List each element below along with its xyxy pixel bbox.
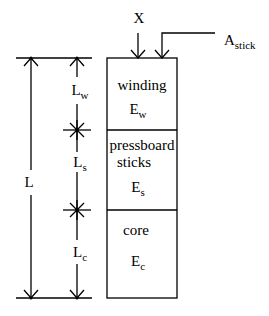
Lc-base: L <box>73 244 82 260</box>
load-label-X: X <box>134 11 145 26</box>
area-label-A-stick: Astick <box>224 33 256 51</box>
section-sticks-modulus: Es <box>131 180 144 198</box>
Ec-base: E <box>131 253 140 269</box>
Ew-sub: w <box>139 108 147 120</box>
Es-sub: s <box>140 186 144 198</box>
section-sticks-label-line1: pressboard <box>110 138 175 153</box>
a-base-text: A <box>224 32 235 48</box>
Ew-base: E <box>129 101 138 117</box>
dimension-label-Ls: Ls <box>73 155 86 173</box>
Ec-sub: c <box>140 260 145 272</box>
Ls-base: L <box>73 154 82 170</box>
winding-text: winding <box>117 77 166 93</box>
section-core-label: core <box>123 223 149 238</box>
section-winding-modulus: Ew <box>129 102 146 120</box>
a-sub-text: stick <box>235 39 256 51</box>
L-text: L <box>24 174 33 190</box>
x-text: X <box>134 10 145 26</box>
section-core-modulus: Ec <box>131 254 145 272</box>
dimension-label-Lc: Lc <box>73 245 87 263</box>
core-text: core <box>123 222 149 238</box>
section-sticks-label-line2: sticks <box>117 155 151 170</box>
Lw-base: L <box>71 82 80 98</box>
Lw-sub: w <box>81 89 89 101</box>
Es-base: E <box>131 179 140 195</box>
dimension-label-Lw: Lw <box>71 83 88 101</box>
section-winding-label: winding <box>117 78 166 93</box>
Lc-sub: c <box>82 251 87 263</box>
dimension-label-L: L <box>24 175 33 190</box>
sticks-text: sticks <box>117 154 151 170</box>
leader-A-stick <box>162 33 215 58</box>
pressboard-text: pressboard <box>110 137 175 153</box>
Ls-sub: s <box>82 161 86 173</box>
